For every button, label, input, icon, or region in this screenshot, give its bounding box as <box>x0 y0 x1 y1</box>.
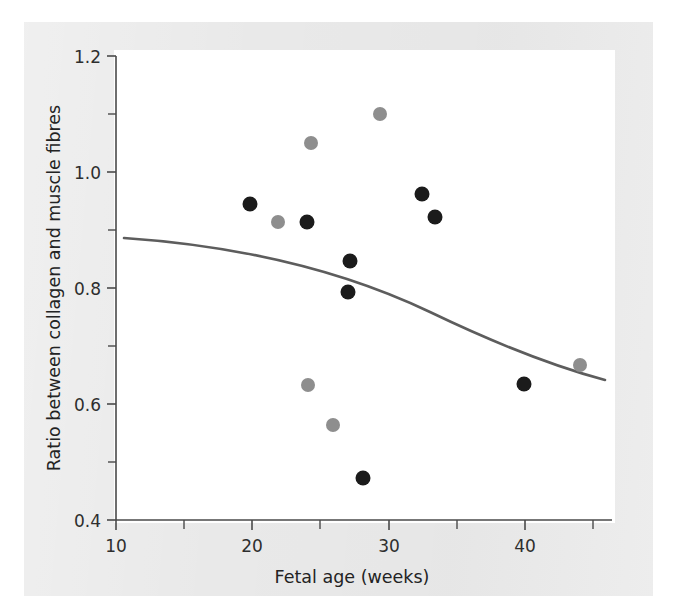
y-tick-label-0-8: 0.8 <box>74 279 101 299</box>
data-point <box>517 377 532 392</box>
data-point <box>573 358 587 372</box>
y-tick-label-0-4: 0.4 <box>74 511 101 531</box>
data-point <box>415 187 430 202</box>
data-point <box>343 254 358 269</box>
x-axis-title: Fetal age (weeks) <box>275 567 430 587</box>
data-point <box>304 136 318 150</box>
data-point <box>341 285 356 300</box>
y-tick-label-1-2: 1.2 <box>74 47 101 67</box>
data-point <box>326 418 340 432</box>
figure-page: 1.2 1.0 0.8 0.6 0.4 10 20 30 40 Fetal ag… <box>0 0 675 615</box>
data-point <box>373 107 387 121</box>
data-point <box>243 197 258 212</box>
x-tick-label-10: 10 <box>105 536 127 556</box>
x-tick-label-40: 40 <box>514 536 536 556</box>
data-point <box>301 378 315 392</box>
x-tick-label-30: 30 <box>378 536 400 556</box>
data-point <box>300 215 315 230</box>
scatter-chart: 1.2 1.0 0.8 0.6 0.4 10 20 30 40 Fetal ag… <box>0 0 675 615</box>
y-tick-label-0-6: 0.6 <box>74 395 101 415</box>
y-tick-label-1-0: 1.0 <box>74 163 101 183</box>
fit-curve <box>124 238 605 380</box>
data-point <box>428 210 443 225</box>
data-points-dark <box>243 187 532 486</box>
y-axis-major-ticks <box>107 56 116 520</box>
x-tick-label-20: 20 <box>241 536 263 556</box>
data-point <box>356 471 371 486</box>
data-point <box>271 215 285 229</box>
y-axis-title: Ratio between collagen and muscle fibres <box>44 105 64 471</box>
